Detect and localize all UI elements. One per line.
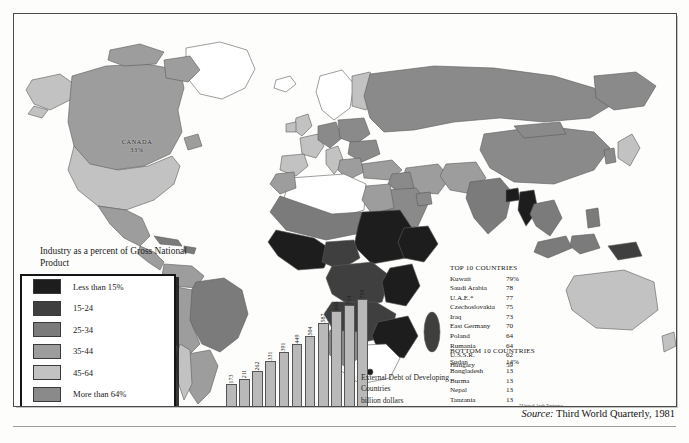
- legend-label-5: More than 64%: [73, 389, 126, 399]
- bar-rect-1981: [305, 336, 316, 407]
- legend-item-4: 45-64: [22, 362, 174, 384]
- bottom-10-rows: Sudan14%Bangladesh13Burma13Nepal13Tanzan…: [450, 358, 535, 407]
- bottom10-value: 14%: [506, 358, 532, 368]
- legend-panel: Less than 15%15-2425-3435-4445-64More th…: [20, 274, 176, 407]
- top10-name: Czechoslovakia: [450, 303, 506, 313]
- map-label-canada-value: 33%: [106, 146, 168, 154]
- bottom10-value: 13: [506, 386, 532, 396]
- chart-title: External Debt of Developing Countries: [361, 372, 457, 394]
- island-madagascar: [424, 312, 440, 352]
- country-indonesia-sumatra: [534, 236, 572, 258]
- top10-value: 64: [506, 332, 532, 342]
- country-canada: [68, 64, 184, 170]
- top-10-heading: TOP 10 COUNTRIES: [450, 264, 532, 274]
- bar-1984: 714: [344, 275, 355, 407]
- country-papua-new-guinea: [608, 242, 642, 260]
- bar-1977: 262: [252, 275, 263, 407]
- chart-bars: 173211262331391449504587668714754: [226, 275, 368, 407]
- top10-row: Poland64: [450, 332, 532, 342]
- bar-value-1975: 173: [227, 375, 235, 384]
- bar-1979: 391: [279, 275, 290, 407]
- country-new-zealand: [662, 332, 676, 352]
- country-korea: [604, 148, 616, 164]
- top10-row: Iraq73: [450, 313, 532, 323]
- legend-rows: Less than 15%15-2425-3435-4445-64More th…: [22, 276, 174, 407]
- map-frame: CANADA 33% 17321126233139144950458766871…: [13, 13, 677, 407]
- bar-value-1982: 587: [319, 314, 327, 323]
- country-ethiopia-somalia: [398, 226, 438, 262]
- bottom10-row: Nepal13: [450, 386, 535, 396]
- bar-rect-1978: [265, 361, 276, 407]
- legend-item-5: More than 64%: [22, 384, 174, 406]
- chart-zero-label: 0: [223, 406, 226, 407]
- bottom10-name: Nepal: [450, 386, 506, 396]
- country-kuwait-uae: [416, 192, 432, 206]
- country-australia: [566, 270, 658, 330]
- legend-title: Industry as a percent of Gross National …: [40, 245, 200, 270]
- bar-value-1985*: 754: [359, 289, 367, 298]
- bottom10-value: 13: [506, 367, 532, 377]
- bottom10-row: Sudan14%: [450, 358, 535, 368]
- bottom-10-heading: BOTTOM 10 COUNTRIES: [450, 347, 535, 357]
- legend-item-6: Data not available: [22, 405, 174, 407]
- country-kenya-tanzania: [382, 264, 420, 306]
- country-norway-sweden: [316, 70, 354, 120]
- canada-newfoundland: [184, 134, 202, 150]
- bottom10-row: Burma13: [450, 377, 535, 387]
- bottom10-name: Burma: [450, 377, 506, 387]
- bar-1982: 587: [318, 275, 329, 407]
- country-indonesia-borneo: [570, 234, 600, 254]
- source-line: Source: Third World Quarterly, 1981: [522, 408, 675, 419]
- bottom10-row: Bangladesh13: [450, 367, 535, 377]
- bar-1978: 331: [265, 275, 276, 407]
- chart-units-label: billion dollars: [361, 396, 403, 405]
- source-rule: [13, 426, 676, 427]
- infographic-root: CANADA 33% 17321126233139144950458766871…: [0, 0, 689, 443]
- top10-name: Saudi Arabia: [450, 284, 506, 294]
- bar-value-1983: 668: [332, 302, 340, 311]
- legend-label-1: 15-24: [73, 303, 93, 313]
- top10-name: Poland: [450, 332, 506, 342]
- top10-row: Kuwait79%: [450, 275, 532, 285]
- bar-value-1978: 331: [267, 352, 275, 361]
- bar-1975: 173: [226, 275, 237, 407]
- top10-value: 78: [506, 284, 532, 294]
- legend-item-0: Less than 15%: [22, 276, 174, 298]
- map-label-canada-name: CANADA: [106, 138, 168, 146]
- country-united-kingdom: [294, 114, 312, 136]
- bottom10-name: Sudan: [450, 358, 506, 368]
- country-ireland: [286, 122, 296, 132]
- bottom10-name: Benin: [450, 405, 506, 407]
- bar-rect-1982: [318, 323, 329, 407]
- top10-value: 73: [506, 313, 532, 323]
- bar-rect-1975: [226, 384, 237, 407]
- country-bangladesh: [506, 188, 520, 202]
- legend-item-1: 15-24: [22, 298, 174, 320]
- legend-label-0: Less than 15%: [73, 282, 124, 292]
- country-chile-strip: [176, 344, 192, 400]
- legend-swatch-0: [33, 279, 61, 294]
- legend-swatch-5: [33, 387, 61, 402]
- country-alaska: [26, 74, 74, 110]
- bar-value-1980: 449: [293, 334, 301, 343]
- bottom10-value: 13: [506, 377, 532, 387]
- top10-value: 79%: [506, 275, 532, 285]
- top10-row: Saudi Arabia78: [450, 284, 532, 294]
- top10-value: 75: [506, 303, 532, 313]
- bottom10-name: Bangladesh: [450, 367, 506, 377]
- country-japan: [618, 134, 640, 166]
- bar-value-1979: 391: [280, 343, 288, 352]
- bar-rect-1977: [252, 371, 263, 407]
- map-label-canada: CANADA 33%: [106, 138, 168, 154]
- legend-swatch-2: [33, 322, 61, 337]
- external-debt-chart: 173211262331391449504587668714754 197519…: [220, 269, 368, 407]
- uae-footnote: *United Arab Emirates: [519, 403, 563, 407]
- bar-rect-1983: [331, 311, 342, 407]
- legend-label-2: 25-34: [73, 325, 93, 335]
- country-egypt: [362, 184, 394, 214]
- legend-item-2: 25-34: [22, 319, 174, 341]
- top10-name: Iraq: [450, 313, 506, 323]
- country-india: [466, 178, 512, 234]
- bar-rect-1976: [239, 379, 250, 407]
- country-thailand-indochina: [530, 200, 562, 236]
